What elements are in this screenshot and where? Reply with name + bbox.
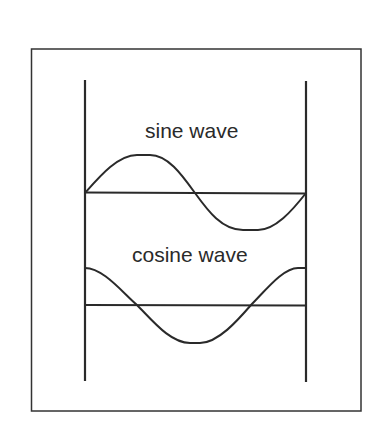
frame-border xyxy=(32,49,362,411)
cosine-wave-label: cosine wave xyxy=(132,243,248,266)
cosine-axis xyxy=(85,305,306,306)
sine-wave-label: sine wave xyxy=(145,119,238,142)
wave-diagram: sine wave cosine wave xyxy=(0,0,381,447)
